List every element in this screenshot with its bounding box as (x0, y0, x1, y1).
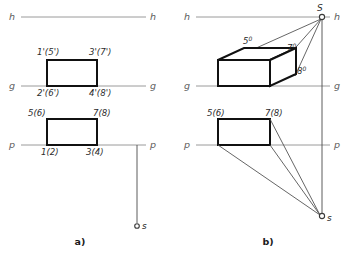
panel-a-caption: a) (75, 236, 86, 247)
panel-b-source-s-marker (319, 213, 324, 218)
panel-a-upper-rectangle (47, 60, 97, 86)
panel-b-lower-rectangle (218, 119, 270, 145)
panel-b-label-5-zero: 50 (243, 35, 252, 46)
panel-b-p-label-right: p (333, 139, 340, 150)
panel-b-source-S-label: S (317, 3, 323, 13)
panel-a-p-label-right: p (149, 139, 156, 150)
panel-a-label-2p6p: 2'(6') (37, 88, 59, 98)
panel-b-h-label-left: h (184, 11, 190, 22)
panel-b-h-label-right: h (334, 11, 340, 22)
panel-a-label-34: 3(4) (86, 147, 104, 157)
panel-b: h h g g p p 50 70 80 (183, 3, 340, 247)
panel-a-h-label-right: h (150, 11, 156, 22)
panel-b-p-label-left: p (183, 139, 190, 150)
panel-b-label-78: 7(8) (265, 108, 283, 118)
panel-a-source-point-marker (135, 224, 140, 229)
panel-a-label-56: 5(6) (28, 108, 46, 118)
panel-b-g-label-right: g (334, 80, 340, 91)
panel-b-label-8-zero: 80 (297, 65, 306, 76)
panel-b-label-56: 5(6) (207, 108, 225, 118)
panel-b-source-S-marker (319, 14, 324, 19)
panel-a-h-label-left: h (9, 11, 15, 22)
panel-b-ray-s-to-plan-right (270, 145, 320, 215)
technical-drawing-figure: h h g g p p 1'(5') 3'(7') 2'(6') 4'(8') … (0, 0, 350, 258)
panel-a-p-label-left: p (8, 139, 15, 150)
panel-b-prism-front-face (218, 60, 270, 86)
panel-b-ray-s-to-plan-top-right (270, 119, 320, 215)
panel-b-ray-s-to-plan-left (218, 145, 320, 215)
panel-a-label-1p5p: 1'(5') (37, 47, 59, 57)
panel-a-label-4p8p: 4'(8') (89, 88, 111, 98)
panel-a-label-12: 1(2) (41, 147, 59, 157)
panel-a-label-3p7p: 3'(7') (89, 47, 111, 57)
panel-a-lower-rectangle (47, 119, 97, 145)
panel-b-caption: b) (262, 236, 273, 247)
panel-b-source-s-label: s (327, 213, 332, 223)
panel-a-label-78: 7(8) (93, 108, 111, 118)
panel-a-source-label: s (142, 221, 147, 231)
panel-b-g-label-left: g (184, 80, 190, 91)
panel-a: h h g g p p 1'(5') 3'(7') 2'(6') 4'(8') … (8, 11, 156, 247)
panel-a-g-label-right: g (150, 80, 156, 91)
figure-canvas: h h g g p p 1'(5') 3'(7') 2'(6') 4'(8') … (0, 0, 350, 258)
panel-a-g-label-left: g (9, 80, 15, 91)
